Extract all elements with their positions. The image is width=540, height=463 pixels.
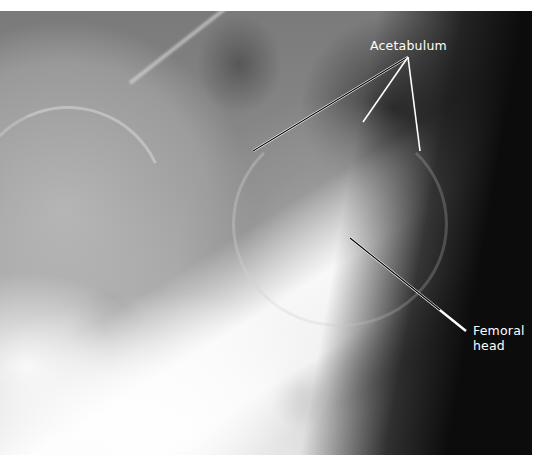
label-acetabulum: Acetabulum <box>370 38 447 53</box>
label-femoral-head-line1: Femoral <box>473 323 525 338</box>
label-femoral-head: Femoral head <box>473 323 525 353</box>
label-femoral-head-line2: head <box>473 338 525 353</box>
annotation-overlay <box>0 0 540 463</box>
femoral-head-leader-line <box>350 238 466 331</box>
acetabulum-leader-lines <box>253 57 420 151</box>
